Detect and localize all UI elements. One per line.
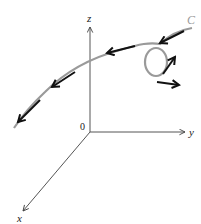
vector-arrow-icon	[18, 100, 40, 122]
axes: z y x 0	[16, 12, 194, 224]
y-axis-label: y	[188, 126, 194, 138]
curve-label: C	[187, 13, 196, 27]
origin-label: 0	[80, 121, 85, 132]
vector-arrow-icon	[107, 46, 135, 53]
vector-arrow-icon	[157, 82, 179, 85]
z-axis-label: z	[86, 12, 92, 24]
x-axis-label: x	[16, 212, 22, 224]
curve-c: C	[14, 13, 196, 128]
vector-arrow-icon	[163, 57, 175, 74]
x-axis	[23, 132, 90, 211]
vector-arrow-icon	[52, 72, 75, 87]
space-curve-diagram: z y x 0 C	[0, 0, 201, 224]
vector-arrow-icon	[160, 31, 184, 43]
curve-path	[14, 28, 192, 128]
